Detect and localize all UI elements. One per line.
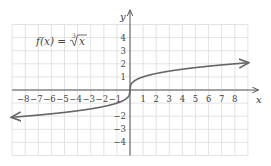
- x-tick-labels: −8−7−6−5−4−3−2−112345678: [17, 94, 238, 104]
- x-tick-label: 3: [167, 94, 172, 104]
- y-tick-label: 2: [121, 59, 126, 69]
- function-label: f(x) = 3 x: [35, 32, 87, 47]
- x-tick-label: −4: [69, 94, 82, 104]
- x-axis-label: x: [256, 94, 262, 105]
- y-tick-label: 4: [121, 33, 126, 43]
- y-axis-label: y: [119, 11, 126, 22]
- x-tick-label: −3: [82, 94, 95, 104]
- x-tick-label: 2: [153, 94, 158, 104]
- radicand: x: [79, 35, 85, 47]
- y-tick-label: 3: [121, 46, 126, 56]
- x-tick-label: −7: [30, 94, 43, 104]
- root-index: 3: [72, 32, 76, 39]
- x-tick-label: 8: [232, 94, 237, 104]
- y-tick-label: −3: [113, 124, 126, 134]
- y-tick-label: −4: [113, 137, 126, 147]
- x-tick-label: 1: [140, 94, 145, 104]
- x-tick-label: −5: [56, 94, 69, 104]
- x-tick-label: −8: [17, 94, 30, 104]
- x-tick-label: −6: [43, 94, 56, 104]
- svg-text:f(x) =: f(x) =: [35, 35, 66, 47]
- x-tick-label: 5: [193, 94, 198, 104]
- x-tick-label: 7: [219, 94, 224, 104]
- x-tick-label: 4: [180, 94, 185, 104]
- function-lhs: f(x) =: [35, 35, 66, 47]
- y-tick-label: −2: [113, 111, 126, 121]
- y-tick-label: 1: [121, 72, 126, 82]
- axes: x y: [12, 11, 262, 156]
- x-tick-label: 6: [206, 94, 211, 104]
- cube-root-chart: x y −8−7−6−5−4−3−2−112345678 4321−2−3−4 …: [0, 0, 271, 166]
- x-tick-label: −2: [96, 94, 109, 104]
